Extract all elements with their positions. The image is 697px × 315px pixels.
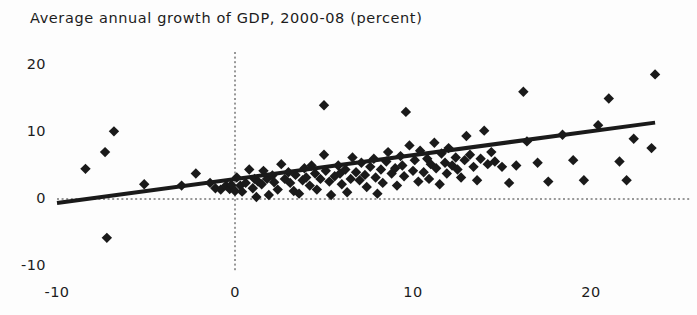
data-point <box>399 171 409 181</box>
data-point <box>378 178 388 188</box>
data-point <box>401 107 411 117</box>
data-point <box>376 164 386 174</box>
data-point <box>621 175 631 185</box>
data-point <box>429 138 439 148</box>
data-point <box>442 168 452 178</box>
trendline <box>57 123 655 203</box>
data-point <box>383 147 393 157</box>
y-axis-tick-label: 10 <box>0 123 46 139</box>
trendline-layer <box>57 123 655 203</box>
data-point <box>532 158 542 168</box>
data-point <box>650 69 660 79</box>
data-point <box>342 187 352 197</box>
data-point <box>372 188 382 198</box>
data-point <box>479 125 489 135</box>
x-axis-tick-label: -10 <box>17 284 97 300</box>
data-point <box>404 140 414 150</box>
data-point <box>80 164 90 174</box>
data-point <box>604 93 614 103</box>
data-point <box>472 175 482 185</box>
data-point <box>435 179 445 189</box>
data-point <box>629 134 639 144</box>
data-point <box>244 164 254 174</box>
data-point <box>646 143 656 153</box>
plot-area <box>0 0 697 315</box>
data-point <box>486 147 496 157</box>
x-axis-tick-label: 0 <box>195 284 275 300</box>
data-point <box>319 100 329 110</box>
data-point <box>518 87 528 97</box>
data-point <box>276 159 286 169</box>
y-axis-tick-label: 20 <box>0 56 46 72</box>
data-point <box>475 154 485 164</box>
data-point <box>337 179 347 189</box>
data-point <box>392 180 402 190</box>
data-point <box>319 150 329 160</box>
data-point <box>408 166 418 176</box>
data-point <box>543 176 553 186</box>
data-point <box>102 233 112 243</box>
data-point <box>568 155 578 165</box>
data-point <box>468 162 478 172</box>
x-axis-tick-label: 20 <box>551 284 631 300</box>
data-point <box>461 131 471 141</box>
data-point <box>100 147 110 157</box>
data-point <box>413 176 423 186</box>
data-point <box>362 182 372 192</box>
data-point <box>504 178 514 188</box>
gdp-growth-scatter-chart: Average annual growth of GDP, 2000-08 (p… <box>0 0 697 315</box>
data-point <box>139 179 149 189</box>
x-axis-tick-label: 10 <box>373 284 453 300</box>
data-point <box>191 168 201 178</box>
data-point <box>579 175 589 185</box>
data-points-layer <box>80 69 660 243</box>
data-point <box>614 156 624 166</box>
y-axis-tick-label: 0 <box>0 190 46 206</box>
y-axis-tick-label: -10 <box>0 257 46 273</box>
data-point <box>109 126 119 136</box>
data-point <box>511 160 521 170</box>
